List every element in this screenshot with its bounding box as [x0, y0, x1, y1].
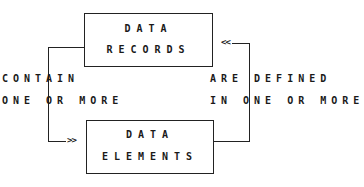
- data-records-line-2: RECORDS: [85, 44, 212, 55]
- edge-label-contain-1: CONTAIN: [2, 73, 79, 84]
- data-elements-line-2: ELEMENTS: [87, 151, 213, 162]
- edge-label-contain-2: ONE OR MORE: [2, 95, 123, 106]
- right-connector-bottom: [214, 141, 250, 142]
- data-records-line-1: DATA: [85, 23, 212, 34]
- data-elements-box: DATA ELEMENTS: [86, 120, 214, 174]
- edge-label-defined-1: ARE DEFINED: [210, 73, 331, 84]
- arrow-right-icon: >>: [67, 136, 76, 145]
- left-connector-bottom: [48, 141, 66, 142]
- edge-label-defined-2: IN ONE OR MORE: [210, 95, 364, 106]
- arrow-left-icon: <<: [221, 38, 230, 47]
- right-connector-top: [232, 43, 250, 44]
- data-elements-line-1: DATA: [87, 129, 213, 140]
- left-connector-vertical: [48, 47, 49, 141]
- data-records-box: DATA RECORDS: [84, 13, 213, 67]
- left-connector-top: [48, 47, 84, 48]
- right-connector-vertical: [249, 43, 250, 141]
